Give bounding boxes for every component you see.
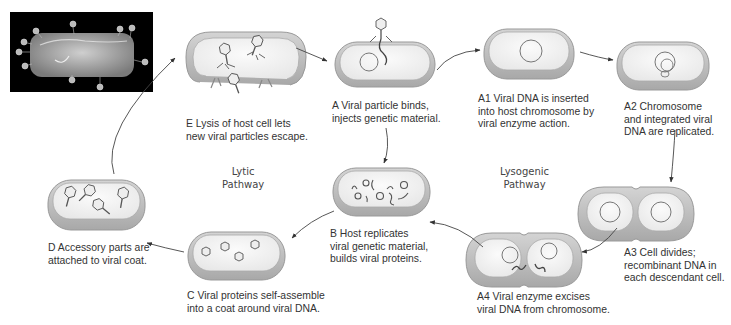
arrow-a-to-b: [384, 128, 388, 163]
cell-a1-insertion: [484, 29, 574, 79]
caption-c: C Viral proteins self-assemble into a co…: [187, 290, 325, 315]
lysogenic-pathway-label: Lysogenic Pathway: [500, 165, 549, 191]
caption-e: E Lysis of host cell lets new viral part…: [186, 118, 308, 143]
cell-b-replication: [333, 168, 430, 216]
caption-a2: A2 Chromosome and integrated viral DNA a…: [624, 101, 714, 139]
cell-c-assembly: [188, 232, 285, 280]
cell-a4-excision: [466, 233, 582, 287]
phage-cycle-diagram: [0, 0, 731, 325]
cell-e-lysis: [186, 32, 306, 95]
caption-a4: A4 Viral enzyme excises viral DNA from c…: [477, 291, 610, 316]
arrow-b-to-c: [292, 211, 334, 238]
caption-a3: A3 Cell divides; recombinant DNA in each…: [624, 247, 725, 285]
cell-d-accessory: [48, 180, 145, 230]
lytic-pathway-label: Lytic Pathway: [222, 165, 264, 191]
arrow-c-to-d: [147, 243, 184, 252]
cell-a3-division: [578, 187, 694, 241]
caption-a: A Viral particle binds, injects genetic …: [332, 100, 441, 125]
caption-a1: A1 Viral DNA is inserted into host chrom…: [478, 93, 594, 131]
cell-a2-replication: [617, 42, 709, 90]
caption-d: D Accessory parts are attached to viral …: [48, 242, 150, 267]
micrograph-photo: [10, 12, 153, 92]
arrow-a-to-a1: [437, 50, 480, 70]
cell-a-binding: [335, 18, 435, 87]
caption-b: B Host replicates viral genetic material…: [330, 228, 428, 266]
arrow-a1-to-a2: [580, 52, 613, 60]
